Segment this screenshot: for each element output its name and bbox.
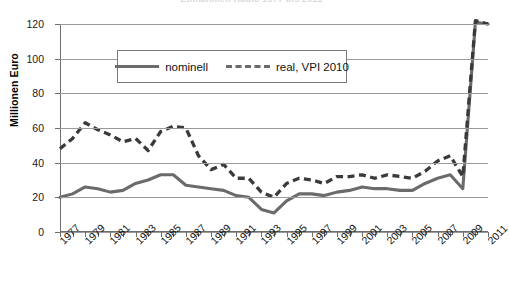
gridline xyxy=(60,24,488,25)
legend-swatch-dashed-icon xyxy=(226,65,270,68)
legend: nominell real, VPI 2010 xyxy=(117,50,347,83)
legend-item-real-vpi-2010: real, VPI 2010 xyxy=(226,61,349,73)
y-tick-label: 100 xyxy=(14,54,44,64)
series-line-real-vpi-2010 xyxy=(60,21,488,198)
chart-title: Einnahmen Radio 1977 bis 2011 xyxy=(0,0,503,4)
legend-item-nominell: nominell xyxy=(115,61,208,73)
legend-label-real-vpi-2010: real, VPI 2010 xyxy=(276,61,349,73)
x-axis-tick-labels: 1977197919811983198519871989199119931995… xyxy=(60,238,488,282)
y-tick-label: 80 xyxy=(14,88,44,98)
gridline xyxy=(60,128,488,129)
y-tick-mark xyxy=(55,59,60,60)
y-tick-mark xyxy=(55,197,60,198)
y-tick-mark xyxy=(55,163,60,164)
y-tick-mark xyxy=(55,24,60,25)
y-tick-mark xyxy=(55,93,60,94)
legend-label-nominell: nominell xyxy=(165,61,208,73)
y-tick-mark xyxy=(55,128,60,129)
y-tick-label: 20 xyxy=(14,192,44,202)
gridline xyxy=(60,93,488,94)
y-tick-label: 120 xyxy=(14,19,44,29)
legend-swatch-solid-icon xyxy=(115,65,159,68)
gridline xyxy=(60,163,488,164)
y-axis-tick-labels: 120100806040200 xyxy=(14,0,44,282)
y-tick-label: 0 xyxy=(14,227,44,237)
y-tick-label: 40 xyxy=(14,158,44,168)
x-tick-label: 2011 xyxy=(485,222,509,246)
y-tick-label: 60 xyxy=(14,123,44,133)
gridline xyxy=(60,197,488,198)
